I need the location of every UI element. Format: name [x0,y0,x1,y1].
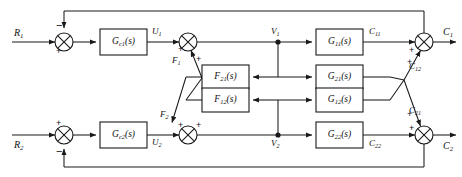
block-label-g21: G21(s) [328,72,351,82]
label-v2: V2 [271,139,280,149]
wire-g21-bend [390,77,404,80]
label-v1: V1 [271,27,280,37]
label-c1: C1 [443,27,453,39]
block-label-g22: G22(s) [328,130,351,140]
label-c2: C2 [443,141,453,153]
label-c11: C11 [369,27,381,37]
sign-r1-plus: + [56,47,61,56]
wire-f21-to-sumf2 [172,77,186,123]
wire-c21-to-sumc2 [404,80,421,126]
label-u1: U1 [152,27,162,37]
sign-f2-plus-left: + [178,121,183,130]
label-f2: F2 [160,110,169,120]
sign-r2-plus: + [56,119,61,128]
block-label-g12: G12(s) [328,95,351,105]
sign-c2-plus-left: + [409,124,414,133]
label-r2: R2 [14,140,24,152]
label-u2: U2 [152,138,162,148]
sign-c1-plus-diag: + [407,58,412,67]
wire-g12-bend [390,80,404,100]
block-label-gc2: Gc2(s) [112,130,135,140]
sign-r2-minus: − [56,146,62,157]
diagram-svg [0,0,462,177]
sign-f2-plus-diag: + [196,121,201,130]
block-label-g11: G11(s) [328,37,351,47]
label-c22: C22 [369,139,381,149]
sign-c1-plus-left: + [409,46,414,55]
block-label-gc1: Gc1(s) [112,37,135,47]
wire-f12-bend [186,78,202,100]
block-label-f21: F21(s) [214,72,236,82]
label-f1: F1 [172,56,181,66]
sign-f1-plus-diag: + [196,55,201,64]
block-diagram-canvas: Gc1(s) Gc2(s) F21(s) F12(s) G11(s) G21(s… [0,0,462,177]
sign-r1-minus: − [56,20,62,31]
label-r1: R1 [14,28,24,40]
block-label-f12: F12(s) [214,95,236,105]
sign-f1-plus-left: + [178,45,183,54]
sign-c2-plus-diag: + [407,110,412,119]
